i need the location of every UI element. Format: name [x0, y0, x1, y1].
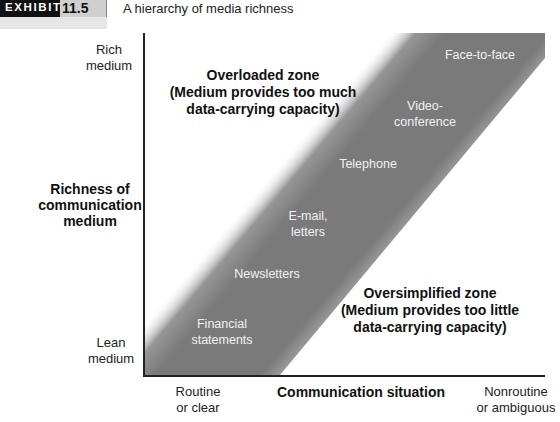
label-line: statements — [172, 332, 272, 348]
overloaded-zone-label: Overloaded zone (Medium provides too muc… — [158, 67, 368, 118]
label-line: data-carrying capacity) — [325, 319, 535, 336]
medium-videoconference: Video- conference — [380, 98, 470, 130]
label-line: or clear — [158, 400, 238, 416]
label-line: medium — [78, 58, 140, 74]
y-axis-bottom-label: Lean medium — [80, 335, 142, 367]
label-line: conference — [380, 114, 470, 130]
label-line: E-mail, — [278, 208, 338, 224]
medium-newsletters: Newsletters — [222, 266, 312, 282]
label-line: (Medium provides too much — [158, 84, 368, 101]
label-line: medium — [80, 351, 142, 367]
medium-financial-statements: Financial statements — [172, 316, 272, 348]
label-line: communication — [30, 197, 150, 213]
x-axis-title: Communication situation — [266, 384, 456, 400]
label-line: Overloaded zone — [158, 67, 368, 84]
exhibit-bar-shadow — [0, 17, 107, 29]
label-line: data-carrying capacity) — [158, 101, 368, 118]
label-line: Rich — [78, 42, 140, 58]
medium-telephone: Telephone — [328, 156, 408, 172]
label-line: Oversimplified zone — [325, 285, 535, 302]
oversimplified-zone-label: Oversimplified zone (Medium provides too… — [325, 285, 535, 336]
exhibit-label: EXHIBIT 11.5 — [0, 0, 107, 29]
x-axis-line — [143, 375, 545, 377]
x-axis-left-label: Routine or clear — [158, 384, 238, 416]
label-line: Richness of — [30, 181, 150, 197]
label-line: Lean — [80, 335, 142, 351]
label-line: Video- — [380, 98, 470, 114]
exhibit-word: EXHIBIT — [5, 1, 62, 13]
medium-face-to-face: Face-to-face — [420, 47, 540, 63]
exhibit-separator — [106, 0, 107, 17]
label-line: Communication situation — [266, 384, 456, 400]
label-line: medium — [30, 213, 150, 229]
label-line: Nonroutine — [466, 384, 560, 400]
label-line: Telephone — [328, 156, 408, 172]
figure-title: A hierarchy of media richness — [123, 1, 294, 16]
label-line: Face-to-face — [420, 47, 540, 63]
label-line: or ambiguous — [466, 400, 560, 416]
label-line: Routine — [158, 384, 238, 400]
y-axis-top-label: Rich medium — [78, 42, 140, 74]
exhibit-number: 11.5 — [62, 0, 88, 16]
label-line: (Medium provides too little — [325, 302, 535, 319]
label-line: letters — [278, 224, 338, 240]
y-axis-title: Richness of communication medium — [30, 181, 150, 229]
label-line: Financial — [172, 316, 272, 332]
label-line: Newsletters — [222, 266, 312, 282]
x-axis-right-label: Nonroutine or ambiguous — [466, 384, 560, 416]
medium-email-letters: E-mail, letters — [278, 208, 338, 240]
